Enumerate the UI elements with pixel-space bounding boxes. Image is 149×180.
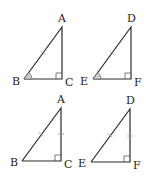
triangles-diagram: A B C D E F A B C D E F bbox=[0, 0, 149, 180]
triangle-abc-bottom: A B C bbox=[10, 93, 72, 171]
vertex-label-c: C bbox=[65, 76, 73, 89]
angle-b-mark bbox=[24, 73, 32, 80]
right-angle-mark bbox=[56, 73, 62, 79]
vertex-label-a: A bbox=[56, 93, 66, 106]
vertex-label-d: D bbox=[126, 94, 135, 107]
triangle-def-top: D E F bbox=[80, 12, 142, 89]
vertex-label-b: B bbox=[12, 75, 20, 88]
vertex-label-a: A bbox=[57, 12, 67, 25]
angle-e-mark bbox=[93, 73, 101, 80]
vertex-label-c: C bbox=[64, 158, 72, 171]
vertex-label-d: D bbox=[127, 12, 136, 25]
right-angle-mark bbox=[124, 156, 130, 162]
vertex-label-e: E bbox=[78, 157, 86, 170]
triangle-abc-top: A B C bbox=[12, 12, 73, 89]
vertex-label-f: F bbox=[134, 76, 142, 89]
vertex-label-b: B bbox=[10, 156, 18, 169]
right-angle-mark bbox=[55, 155, 61, 161]
triangle-def-bottom: D E F bbox=[78, 94, 141, 172]
vertex-label-f: F bbox=[133, 159, 141, 172]
vertex-label-e: E bbox=[80, 75, 88, 88]
right-angle-mark bbox=[125, 73, 131, 79]
